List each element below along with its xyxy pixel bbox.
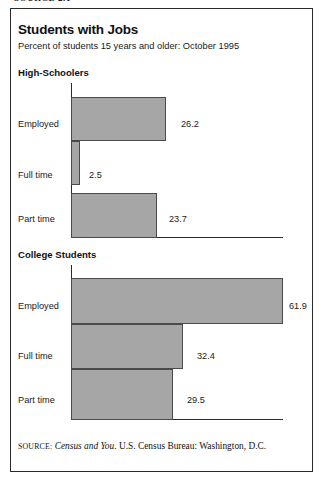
chart-panel-college-students: Employed 61.9 Full time 32.4 Part time 2… bbox=[11, 265, 314, 423]
bar-value-label: 23.7 bbox=[169, 214, 187, 224]
bar-rect bbox=[71, 324, 183, 369]
bar-rect bbox=[71, 193, 157, 238]
panel-heading-college-students: College Students bbox=[18, 249, 96, 260]
source-rest: . U.S. Census Bureau: Washington, D.C. bbox=[114, 441, 266, 451]
bar-rect bbox=[71, 278, 283, 324]
chart-subtitle: Percent of students 15 years and older: … bbox=[18, 41, 239, 51]
panel-heading-high-schoolers: High-Schoolers bbox=[18, 67, 89, 78]
bar-rect bbox=[71, 369, 173, 420]
bar-label: Employed bbox=[18, 301, 59, 311]
page-header-bleed-text: SOURCE 2.1 bbox=[14, 0, 71, 3]
bar-value-label: 26.2 bbox=[181, 119, 199, 129]
figure-frame: Students with Jobs Percent of students 1… bbox=[10, 8, 313, 472]
chart-panel-high-schoolers: Employed 26.2 Full time 2.5 Part time 23… bbox=[11, 83, 314, 241]
bar-label: Part time bbox=[18, 395, 55, 405]
chart-title: Students with Jobs bbox=[18, 22, 138, 37]
source-label: SOURCE: bbox=[18, 442, 52, 451]
bar-label: Employed bbox=[18, 119, 59, 129]
source-note: SOURCE: Census and You. U.S. Census Bure… bbox=[18, 441, 266, 451]
bar-value-label: 32.4 bbox=[197, 351, 215, 361]
bar-value-label: 61.9 bbox=[289, 301, 307, 311]
source-publication: Census and You bbox=[55, 441, 115, 451]
bar-label: Full time bbox=[18, 170, 53, 180]
bar-label: Part time bbox=[18, 214, 55, 224]
bar-rect bbox=[71, 141, 80, 185]
bar-value-label: 29.5 bbox=[187, 395, 205, 405]
bar-rect bbox=[71, 97, 166, 141]
bar-label: Full time bbox=[18, 351, 53, 361]
bar-value-label: 2.5 bbox=[89, 170, 102, 180]
